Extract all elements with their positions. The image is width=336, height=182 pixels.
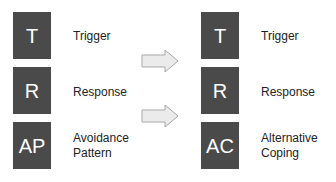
left-label-response: Response [73,85,127,100]
box-letter: T [214,26,226,46]
right-arrow-icon [141,104,179,128]
right-label-trigger: Trigger [261,29,299,44]
label-line: Response [261,85,315,99]
box-letter: AC [206,136,234,156]
left-label-avoidance-pattern: Avoidance Pattern [73,131,129,161]
right-box-trigger: T [201,12,239,59]
right-box-alternative-coping: AC [201,122,239,169]
left-label-trigger: Trigger [73,29,111,44]
left-box-avoidance-pattern: AP [13,122,51,169]
right-arrow-icon [141,49,179,73]
left-box-trigger: T [13,12,51,59]
label-line: Trigger [261,29,299,43]
label-line: Response [73,85,127,99]
label-line: Pattern [73,146,129,161]
label-line: Avoidance [73,131,129,146]
box-letter: R [25,81,39,101]
label-line: Trigger [73,29,111,43]
box-letter: AP [19,136,46,156]
right-label-alternative-coping: Alternative Coping [261,131,318,161]
box-letter: T [26,26,38,46]
right-box-response: R [201,67,239,114]
label-line: Coping [261,146,318,161]
left-box-response: R [13,67,51,114]
box-letter: R [213,81,227,101]
right-label-response: Response [261,85,315,100]
label-line: Alternative [261,131,318,146]
